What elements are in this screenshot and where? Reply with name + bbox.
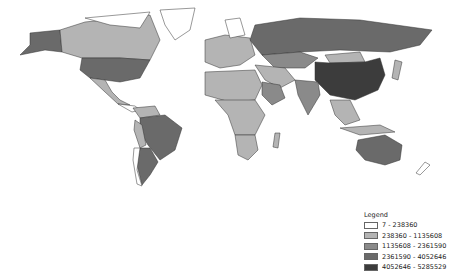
legend-item: 1135608 - 2361590 xyxy=(364,241,449,252)
legend-label: 1135608 - 2361590 xyxy=(382,242,446,250)
region-north-africa xyxy=(205,70,262,102)
region-china xyxy=(315,58,385,100)
legend-item: 7 - 238360 xyxy=(364,220,449,231)
region-central-africa xyxy=(215,100,265,135)
legend-swatch xyxy=(364,232,378,239)
region-australia xyxy=(356,135,402,165)
legend-label: 238360 - 1135608 xyxy=(382,232,442,240)
region-scandinavia xyxy=(225,18,245,38)
legend-swatch xyxy=(364,264,378,271)
legend-swatch xyxy=(364,222,378,229)
legend-swatch xyxy=(364,243,378,250)
region-japan xyxy=(392,60,402,80)
region-mexico xyxy=(90,78,130,105)
legend-item: 4052646 - 5285529 xyxy=(364,262,449,273)
legend-item: 238360 - 1135608 xyxy=(364,231,449,242)
map-legend: Legend 7 - 238360 238360 - 1135608 11356… xyxy=(364,211,449,273)
legend-label: 7 - 238360 xyxy=(382,221,417,229)
region-russia xyxy=(250,18,432,55)
legend-item: 2361590 - 4052646 xyxy=(364,252,449,263)
region-madagascar xyxy=(273,133,280,148)
legend-label: 2361590 - 4052646 xyxy=(382,253,446,261)
region-mongolia xyxy=(325,52,365,63)
legend-label: 4052646 - 5285529 xyxy=(382,263,446,271)
world-choropleth-map xyxy=(0,0,449,230)
region-new-zealand xyxy=(416,162,430,175)
region-indonesia xyxy=(340,125,395,135)
legend-swatch xyxy=(364,253,378,260)
region-greenland xyxy=(160,8,195,40)
region-southern-africa xyxy=(235,135,258,160)
region-southeast-asia xyxy=(330,100,360,125)
region-india xyxy=(295,80,320,115)
region-europe xyxy=(205,35,255,68)
region-alaska xyxy=(20,30,62,55)
region-kazakhstan xyxy=(262,52,318,68)
legend-title: Legend xyxy=(364,211,449,219)
